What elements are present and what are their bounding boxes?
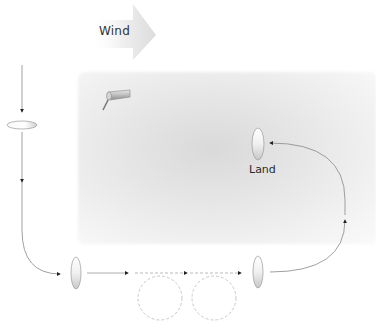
aircraft-ellipse-icon xyxy=(71,257,81,289)
diagram-canvas: Wind Land xyxy=(0,0,376,328)
land-label: Land xyxy=(249,163,276,176)
aircraft-ellipse-icon xyxy=(252,128,264,160)
aircraft-ellipse-icon xyxy=(253,256,263,288)
aircraft-ellipse-icon xyxy=(7,121,37,129)
final-approach xyxy=(270,220,345,272)
wind-label: Wind xyxy=(99,24,130,38)
windsock-icon xyxy=(103,90,130,110)
base-turn xyxy=(22,182,60,274)
final-approach-upper xyxy=(270,143,345,215)
flight-path-svg xyxy=(0,0,376,328)
circle-turns xyxy=(135,273,241,320)
